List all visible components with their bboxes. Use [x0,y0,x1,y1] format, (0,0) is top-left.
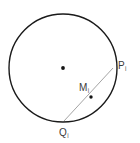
point-label-Q-text: Q [59,127,67,138]
center-point-dot [61,66,65,70]
point-label-Q-subscript: i [67,132,68,139]
point-label-M-text: M [79,82,87,93]
point-label-P: Pi [118,61,126,72]
point-label-M: Mi [79,83,89,94]
point-label-P-text: P [118,60,125,71]
geometry-figure: Pi Mi Qi [0,0,140,143]
chord-segment-PQ [64,68,113,121]
point-label-M-subscript: i [88,87,89,94]
point-label-P-subscript: i [125,65,126,72]
midpoint-M-dot [89,95,92,98]
point-label-Q: Qi [59,128,68,139]
